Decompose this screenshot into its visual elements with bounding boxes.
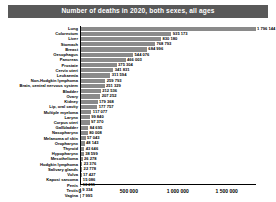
bar <box>80 94 100 98</box>
bar <box>80 42 155 46</box>
category-label: Vagina <box>65 193 78 198</box>
bar-value-label: 7 995 <box>81 194 93 198</box>
bar-track: 38 599 <box>80 152 276 156</box>
bar-value-label: 22 778 <box>82 167 96 171</box>
bar-value-label: 97 370 <box>90 120 104 124</box>
bar-track: 43 646 <box>80 147 276 151</box>
bar-value-label: 1 796 144 <box>256 27 276 31</box>
bar <box>80 100 98 104</box>
bar <box>80 68 113 72</box>
bar <box>80 79 105 83</box>
bar-track: 684 996 <box>80 47 276 51</box>
x-tick-label: 0 <box>79 188 82 194</box>
bar <box>80 115 90 119</box>
bar <box>80 63 117 67</box>
bar-track: 466 003 <box>80 58 276 62</box>
chart-title-banner: Number of deaths in 2020, both sexes, al… <box>8 5 268 18</box>
bar-track: 830 180 <box>80 37 276 41</box>
bar-track: 544 076 <box>80 53 276 57</box>
bar-track: 341 831 <box>80 68 276 72</box>
bar-track: 375 304 <box>80 63 276 67</box>
bar <box>80 27 256 31</box>
bar <box>80 32 171 36</box>
bar <box>80 53 133 57</box>
bar-track: 207 252 <box>80 94 276 98</box>
bar-track: 57 043 <box>80 136 276 140</box>
x-tick-label: 500 000 <box>120 188 138 194</box>
bar <box>80 73 110 77</box>
x-tick-label: 1 000 000 <box>167 188 189 194</box>
bar <box>80 126 88 130</box>
plot-area: Lung1 796 144Colorectum935 173Liver830 1… <box>0 26 276 184</box>
bar-value-label: 9 334 <box>81 188 93 192</box>
bar <box>80 110 91 114</box>
bar-value-label: 48 143 <box>85 141 99 145</box>
bar-track: 935 173 <box>80 32 276 36</box>
bar-track: 17 427 <box>80 173 276 177</box>
bar-track: 97 370 <box>80 120 276 124</box>
bar-track: 99 840 <box>80 115 276 119</box>
bar-track: 22 778 <box>80 167 276 171</box>
bar <box>80 84 105 88</box>
bar-track: 84 695 <box>80 126 276 130</box>
bar-value-label: 684 996 <box>147 47 163 51</box>
bar-track: 48 143 <box>80 141 276 145</box>
bar <box>80 89 101 93</box>
bar-track: 26 278 <box>80 157 276 161</box>
bar-track: 117 077 <box>80 110 276 114</box>
bar-value-label: 207 252 <box>100 94 116 98</box>
bar <box>80 120 90 124</box>
x-tick-label: 1 500 000 <box>216 188 238 194</box>
bar-track: 7 995 <box>80 194 276 198</box>
bar-track: 768 793 <box>80 42 276 46</box>
page-title: Number of deaths in 2020, both sexes, al… <box>61 8 214 15</box>
x-axis-line <box>80 184 256 185</box>
bar-track: 23 376 <box>80 162 276 166</box>
bar <box>80 37 161 41</box>
y-axis-line <box>80 26 81 184</box>
bar-track: 177 757 <box>80 105 276 109</box>
bar-track: 80 008 <box>80 131 276 135</box>
bar-track: 15 086 <box>80 178 276 182</box>
bar <box>80 47 147 51</box>
bar-chart: Number of deaths in 2020, both sexes, al… <box>0 0 276 202</box>
